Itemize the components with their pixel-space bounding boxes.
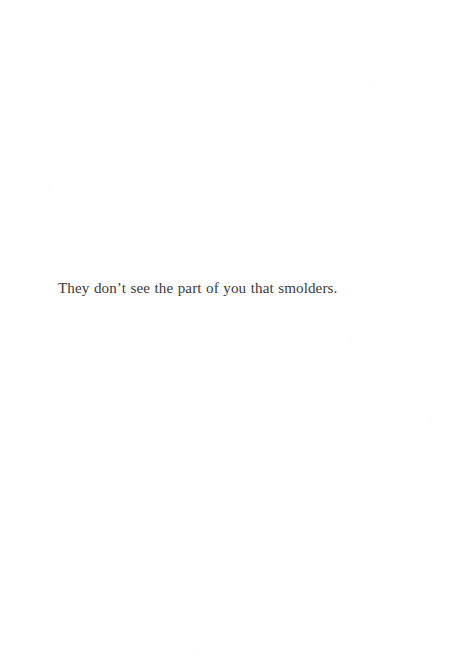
paper-speck xyxy=(430,420,432,422)
paper-speck xyxy=(196,650,198,652)
paper-grain xyxy=(0,0,458,664)
paper-speck xyxy=(48,185,50,187)
book-page: They don’t see the part of you that smol… xyxy=(0,0,458,664)
paper-speck xyxy=(350,340,352,342)
text-block: They don’t see the part of you that smol… xyxy=(0,278,458,298)
paper-speck xyxy=(373,82,375,84)
body-text-line: They don’t see the part of you that smol… xyxy=(0,278,458,298)
paper-speck xyxy=(28,655,30,657)
